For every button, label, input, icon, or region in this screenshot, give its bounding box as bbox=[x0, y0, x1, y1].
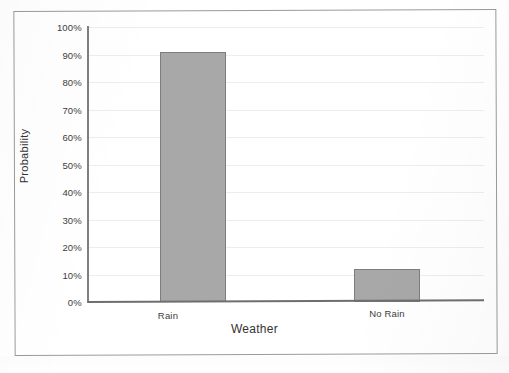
y-tick-label: 10% bbox=[36, 270, 82, 281]
y-tick-label: 90% bbox=[36, 50, 82, 61]
plot-area bbox=[88, 27, 484, 302]
bar-rain bbox=[160, 52, 226, 302]
x-tick-label-no-rain: No Rain bbox=[352, 308, 422, 319]
y-axis-line bbox=[87, 26, 89, 303]
bar-no-rain bbox=[354, 269, 420, 302]
gridline-20 bbox=[88, 247, 484, 248]
chart-figure: 100% 90% 80% 70% 60% 50% 40% 30% 20% 10%… bbox=[0, 0, 509, 373]
gridline-10 bbox=[88, 275, 484, 276]
y-axis-title: Probability bbox=[18, 106, 30, 206]
y-tick-label: 80% bbox=[36, 77, 82, 88]
y-tick-label: 60% bbox=[36, 132, 82, 143]
y-tick-label: 20% bbox=[36, 242, 82, 253]
y-tick-label: 30% bbox=[36, 215, 82, 226]
y-axis-tick-labels: 100% 90% 80% 70% 60% 50% 40% 30% 20% 10%… bbox=[32, 0, 82, 373]
gridline-100 bbox=[88, 27, 484, 28]
y-tick-label: 40% bbox=[36, 187, 82, 198]
gridline-40 bbox=[88, 192, 484, 193]
gridline-90 bbox=[88, 55, 484, 56]
y-tick-label: 0% bbox=[36, 297, 82, 308]
gridline-30 bbox=[88, 220, 484, 221]
y-tick-label: 50% bbox=[36, 160, 82, 171]
gridline-80 bbox=[88, 82, 484, 83]
x-axis-title: Weather bbox=[0, 322, 509, 336]
y-tick-label: 70% bbox=[36, 105, 82, 116]
x-tick-label-rain: Rain bbox=[133, 310, 203, 321]
gridline-50 bbox=[88, 165, 484, 166]
y-tick-label: 100% bbox=[36, 22, 82, 33]
gridline-70 bbox=[88, 110, 484, 111]
gridline-60 bbox=[88, 137, 484, 138]
